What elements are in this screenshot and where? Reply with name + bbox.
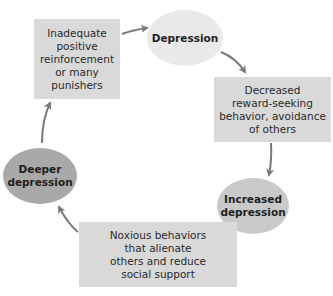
arrow-inadequate-to-depression [122, 28, 147, 34]
arrow-noxious-to-deeper [59, 207, 78, 232]
node-deeper-depression: Deeper depression [3, 148, 77, 204]
node-depression: Depression [147, 10, 223, 66]
node-label: Deeper depression [7, 163, 72, 189]
node-label: Increased depression [220, 193, 285, 219]
node-noxious-behaviors: Noxious behaviors that alienate others a… [79, 222, 237, 287]
arrow-depression-to-decreased [221, 52, 245, 72]
arrow-decreased-to-increased [269, 143, 271, 175]
arrow-deeper-to-inadequate [42, 103, 50, 143]
depression-cycle-diagram: Inadequate positive reinforcement or man… [0, 0, 333, 296]
node-inadequate-reinforcement: Inadequate positive reinforcement or man… [34, 19, 120, 99]
node-label: Decreased reward-seeking behavior, avoid… [219, 84, 326, 136]
node-label: Noxious behaviors that alienate others a… [110, 229, 207, 281]
node-label: Inadequate positive reinforcement or man… [40, 27, 114, 92]
node-label: Depression [152, 32, 218, 45]
node-decreased-reward-seeking: Decreased reward-seeking behavior, avoid… [214, 77, 331, 142]
